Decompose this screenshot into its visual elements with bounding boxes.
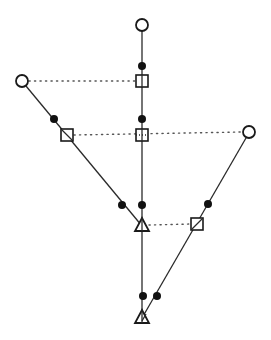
dotted-link-lower	[149, 224, 191, 225]
dot-right-1	[204, 200, 212, 208]
branches	[26, 31, 246, 318]
square-nodes	[61, 75, 203, 230]
open-circle-top-node	[136, 19, 148, 31]
dotted-link-middle	[74, 132, 242, 135]
dot-center-1	[138, 62, 146, 70]
dot-center-3	[138, 201, 146, 209]
square-left	[61, 129, 73, 141]
open-circle-right-node	[243, 126, 255, 138]
dot-center-2	[138, 115, 146, 123]
filled-dot-nodes	[50, 62, 212, 300]
dot-left-2	[118, 201, 126, 209]
triangle-bottom	[135, 310, 149, 323]
dot-center-4	[139, 292, 147, 300]
dot-left-1	[50, 115, 58, 123]
lineage-diagram	[0, 0, 271, 340]
open-circle-left-node	[16, 75, 28, 87]
square-center-1	[136, 75, 148, 87]
dot-right-2	[153, 292, 161, 300]
square-center-2	[136, 129, 148, 141]
square-right	[191, 218, 203, 230]
